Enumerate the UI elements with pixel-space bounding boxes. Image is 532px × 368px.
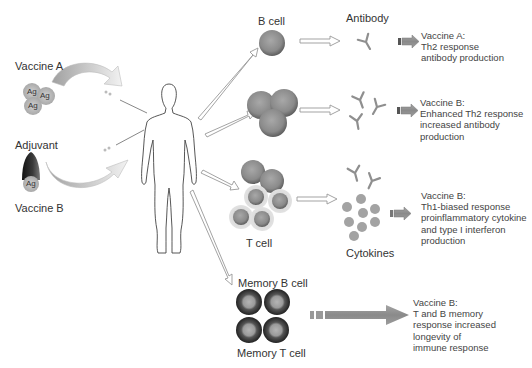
outcome-vaccine-b-th2: Vaccine B: Enhanced Th2 response increas… bbox=[420, 97, 532, 142]
syringe-icons bbox=[104, 91, 148, 152]
outcome-3-line-3: proinflammatory cytokine bbox=[421, 212, 532, 223]
outcome-arrow-1 bbox=[398, 35, 419, 48]
outcome-4-line-5: immune response bbox=[413, 342, 513, 353]
adjuvant-label: Adjuvant bbox=[15, 139, 58, 151]
outcome-1-line-1: Vaccine A: bbox=[421, 30, 531, 41]
vaccine-a-label: Vaccine A bbox=[15, 60, 63, 72]
antigen-label-1: Ag bbox=[27, 88, 37, 97]
outcome-1-line-3: antibody production bbox=[421, 52, 531, 63]
antibody-icons bbox=[348, 34, 386, 191]
vaccine-b-curved-arrow bbox=[46, 160, 128, 188]
b-cell bbox=[259, 30, 285, 56]
outcome-vaccine-b-th1: Vaccine B: Th1-biased response proinflam… bbox=[421, 190, 532, 246]
outcome-vaccine-a: Vaccine A: Th2 response antibody product… bbox=[421, 30, 531, 64]
outcome-vaccine-b-memory: Vaccine B: T and B memory response incre… bbox=[413, 297, 513, 353]
antigen-label-adjuvant: Ag bbox=[26, 180, 36, 189]
outcome-arrow-3 bbox=[390, 207, 411, 220]
vaccine-b-label: Vaccine B bbox=[15, 202, 64, 214]
outcome-1-line-2: Th2 response bbox=[421, 41, 531, 52]
memory-outcome-arrow bbox=[310, 305, 409, 325]
outcome-2-line-2: Enhanced Th2 response bbox=[420, 108, 532, 119]
outcome-2-line-3: increased antibody bbox=[420, 119, 532, 130]
outcome-4-line-4: longevity of bbox=[413, 331, 513, 342]
outcome-4-line-2: T and B memory bbox=[413, 308, 513, 319]
outcome-4-line-3: response increased bbox=[413, 319, 513, 330]
t-cell-label: T cell bbox=[246, 237, 272, 249]
b-cell-cluster bbox=[247, 89, 298, 137]
outcome-arrow-2 bbox=[397, 104, 418, 117]
outcome-3-line-5: production bbox=[421, 235, 532, 246]
outcome-3-line-1: Vaccine B: bbox=[421, 190, 532, 201]
memory-cell-group bbox=[236, 289, 290, 343]
antigen-label-2: Ag bbox=[40, 92, 50, 101]
outcome-3-line-4: and type I interferon bbox=[421, 224, 532, 235]
outcome-arrows bbox=[310, 35, 419, 325]
outcome-3-line-2: Th1-biased response bbox=[421, 201, 532, 212]
cytokines-label: Cytokines bbox=[346, 247, 394, 259]
memory-t-cell-label: Memory T cell bbox=[237, 347, 306, 359]
b-cell-label: B cell bbox=[258, 15, 285, 27]
cytokine-dots bbox=[342, 194, 380, 241]
outcome-4-line-1: Vaccine B: bbox=[413, 297, 513, 308]
antibody-label: Antibody bbox=[346, 12, 389, 24]
outcome-2-line-4: production bbox=[420, 131, 532, 142]
human-body-outline bbox=[142, 84, 197, 253]
t-cell-group bbox=[229, 160, 292, 231]
memory-b-cell-label: Memory B cell bbox=[238, 277, 308, 289]
outcome-2-line-1: Vaccine B: bbox=[420, 97, 532, 108]
antigen-label-3: Ag bbox=[28, 102, 38, 111]
